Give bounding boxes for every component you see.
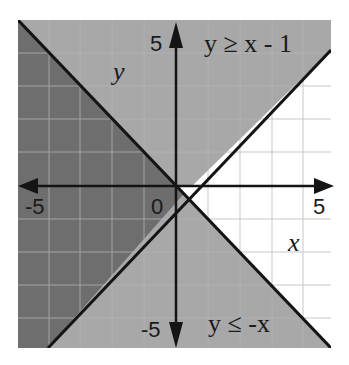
inequality-graph: 5 -5 -5 5 0 y x y ≥ x - 1 y ≤ -x [0, 0, 349, 365]
x-axis-label: x [287, 228, 300, 257]
inequality-label-2: y ≤ -x [208, 309, 270, 338]
y-axis-label: y [110, 57, 125, 86]
inequality-label-1: y ≥ x - 1 [204, 29, 292, 58]
y-min-label: -5 [141, 317, 161, 342]
y-max-label: 5 [150, 31, 162, 56]
x-max-label: 5 [313, 194, 325, 219]
origin-label: 0 [151, 194, 163, 219]
plot-area [18, 20, 331, 348]
x-min-label: -5 [25, 194, 45, 219]
